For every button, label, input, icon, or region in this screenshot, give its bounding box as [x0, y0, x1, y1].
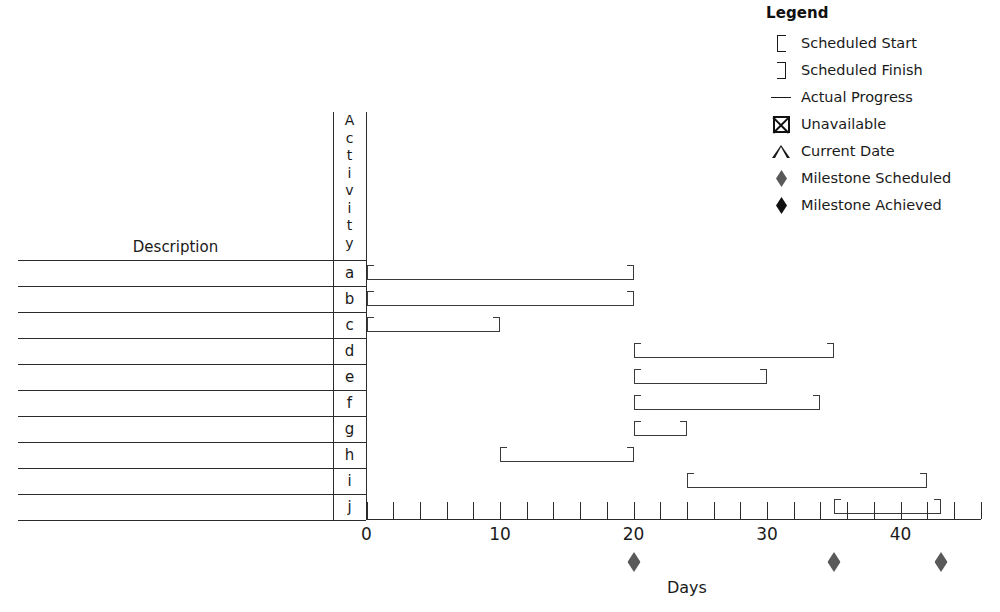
x-axis-tick	[901, 502, 902, 519]
gantt-bar	[634, 343, 834, 358]
legend-item-scheduled-finish: Scheduled Finish	[766, 57, 1000, 84]
table-row-rule	[18, 494, 366, 495]
actual-progress-line	[367, 331, 501, 332]
activity-header-letter: t	[347, 147, 353, 165]
legend-item-label: Milestone Achieved	[801, 198, 942, 213]
scheduled-finish-bracket	[934, 499, 941, 514]
x-axis-tick	[847, 502, 848, 519]
activity-header-letter: A	[345, 112, 355, 130]
actual-progress-line	[634, 357, 834, 358]
bracket-right-icon	[766, 57, 796, 84]
legend-title: Legend	[766, 4, 1000, 22]
activity-column-right-rule	[366, 112, 367, 520]
table-row-rule	[18, 468, 366, 469]
table-row-rule	[18, 416, 366, 417]
x-axis-tick-label: 30	[756, 524, 778, 544]
actual-progress-line	[367, 279, 634, 280]
milestone-scheduled-marker	[827, 552, 840, 576]
black-diamond-icon	[766, 192, 796, 219]
table-row-rule	[18, 338, 366, 339]
gantt-bar	[834, 499, 941, 514]
scheduled-finish-bracket	[760, 369, 767, 384]
table-row-rule	[18, 364, 366, 365]
gantt-bar	[634, 395, 821, 410]
legend-item-label: Scheduled Start	[801, 36, 917, 51]
x-axis-tick	[820, 502, 821, 519]
legend-item-milestone-achieved: Milestone Achieved	[766, 192, 1000, 219]
gantt-bar	[367, 291, 634, 306]
activity-id-cell: e	[333, 364, 366, 390]
x-axis-tick	[981, 502, 982, 519]
activity-id-cell: g	[333, 416, 366, 442]
milestone-scheduled-marker	[934, 552, 947, 576]
x-axis-tick	[393, 502, 394, 519]
scheduled-start-bracket	[634, 395, 641, 410]
scheduled-start-bracket	[634, 369, 641, 384]
x-axis-line	[366, 519, 981, 520]
activity-header-letter: t	[347, 217, 353, 235]
legend: Legend Scheduled Start Scheduled Finish …	[766, 4, 1000, 219]
description-column-header: Description	[18, 238, 333, 256]
x-axis-tick	[634, 502, 635, 519]
legend-item-label: Scheduled Finish	[801, 63, 923, 78]
actual-progress-line	[834, 513, 941, 514]
activity-header-letter: i	[348, 165, 352, 183]
x-axis-tick	[580, 502, 581, 519]
milestone-scheduled-marker	[627, 552, 640, 576]
actual-progress-line	[367, 305, 634, 306]
activity-column-header: Activity	[333, 112, 366, 252]
actual-progress-line	[687, 487, 927, 488]
actual-progress-line	[634, 435, 687, 436]
scheduled-start-bracket	[634, 421, 641, 436]
activity-id-cell: d	[333, 338, 366, 364]
activity-id-cell: i	[333, 468, 366, 494]
x-axis-tick	[794, 502, 795, 519]
bracket-left-icon	[766, 30, 796, 57]
scheduled-finish-bracket	[813, 395, 820, 410]
table-row-rule	[18, 286, 366, 287]
x-axis-tick	[447, 502, 448, 519]
crossed-box-icon	[766, 111, 796, 138]
legend-item-label: Unavailable	[801, 117, 886, 132]
gantt-bar	[367, 317, 501, 332]
activity-id-cell: a	[333, 260, 366, 286]
activity-header-letter: y	[345, 235, 353, 253]
horizontal-line-icon	[766, 84, 796, 111]
scheduled-finish-bracket	[627, 291, 634, 306]
table-row-rule	[18, 390, 366, 391]
scheduled-finish-bracket	[680, 421, 687, 436]
x-axis-tick-label: 10	[489, 524, 511, 544]
scheduled-finish-bracket	[827, 343, 834, 358]
legend-item-label: Actual Progress	[801, 90, 913, 105]
table-row-rule	[18, 312, 366, 313]
scheduled-finish-bracket	[627, 265, 634, 280]
x-axis-tick	[527, 502, 528, 519]
x-axis-tick	[500, 502, 501, 519]
activity-table: Description Activity abcdefghij	[0, 0, 370, 530]
x-axis-tick	[473, 502, 474, 519]
gantt-bar	[687, 473, 927, 488]
table-row-rule	[18, 442, 366, 443]
x-axis-tick	[954, 502, 955, 519]
x-axis-tick	[420, 502, 421, 519]
gantt-bar	[500, 447, 634, 462]
scheduled-finish-bracket	[493, 317, 500, 332]
x-axis-tick	[553, 502, 554, 519]
legend-item-unavailable: Unavailable	[766, 111, 1000, 138]
activity-id-cell: h	[333, 442, 366, 468]
scheduled-start-bracket	[634, 343, 641, 358]
gantt-bar	[634, 421, 687, 436]
legend-item-scheduled-start: Scheduled Start	[766, 30, 1000, 57]
caret-up-icon	[766, 138, 796, 165]
legend-item-milestone-scheduled: Milestone Scheduled	[766, 165, 1000, 192]
x-axis-title: Days	[667, 578, 707, 597]
table-row-rule	[18, 520, 366, 521]
scheduled-start-bracket	[687, 473, 694, 488]
activity-id-cell: f	[333, 390, 366, 416]
activity-header-letter: c	[346, 130, 354, 148]
x-axis-tick	[660, 502, 661, 519]
activity-header-letter: v	[345, 182, 353, 200]
x-axis-tick-label: 40	[890, 524, 912, 544]
x-axis-tick	[740, 502, 741, 519]
scheduled-finish-bracket	[627, 447, 634, 462]
